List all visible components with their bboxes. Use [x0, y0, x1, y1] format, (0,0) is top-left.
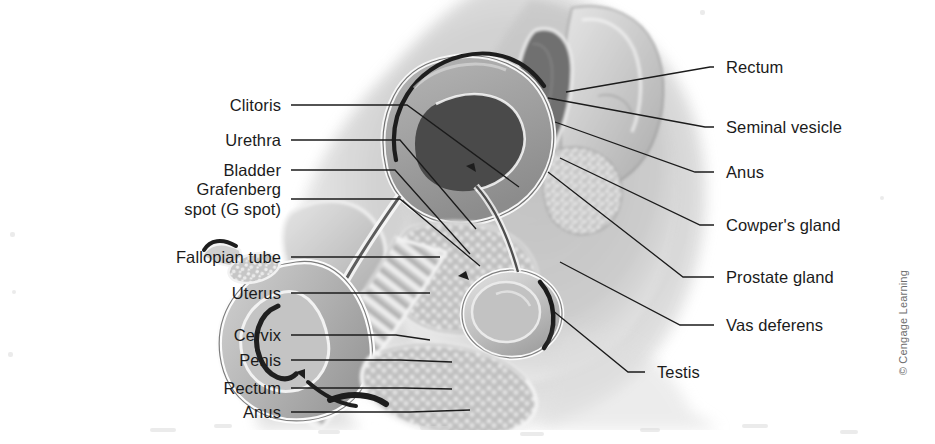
label-bladder: Bladder — [223, 160, 281, 180]
label-text-uterus: Uterus — [232, 283, 281, 303]
label-text-penis: Penis — [239, 350, 281, 370]
label-text-cowpers-gland: Cowper's gland — [726, 215, 841, 235]
label-text-rectum-right: Rectum — [726, 57, 783, 77]
label-clitoris: Clitoris — [230, 95, 281, 115]
label-text-prostate-gland: Prostate gland — [726, 267, 834, 287]
label-text-fallopian-tube: Fallopian tube — [176, 247, 281, 267]
copyright-notice: © Cengage Learning — [897, 270, 909, 375]
label-penis: Penis — [239, 350, 281, 370]
label-text-vas-deferens: Vas deferens — [726, 315, 823, 335]
label-text-testis: Testis — [657, 362, 700, 382]
label-urethra: Urethra — [225, 130, 281, 150]
label-text-urethra: Urethra — [225, 130, 281, 150]
label-text-cervix: Cervix — [234, 325, 281, 345]
label-anus-left: Anus — [243, 402, 281, 422]
label-cowpers-gland: Cowper's gland — [726, 215, 841, 235]
label-text-anus-left: Anus — [243, 402, 281, 422]
label-text-rectum-left: Rectum — [224, 378, 281, 398]
label-uterus: Uterus — [232, 283, 281, 303]
label-rectum-left: Rectum — [224, 378, 281, 398]
label-text-clitoris: Clitoris — [230, 95, 281, 115]
anatomy-figure: ClitorisUrethraBladderGrafenbergspot (G … — [0, 0, 935, 444]
label-text-grafenberg-spot: Grafenberg — [184, 179, 281, 199]
label-cervix: Cervix — [234, 325, 281, 345]
label-rectum-right: Rectum — [726, 57, 783, 77]
label-anus-right: Anus — [726, 162, 764, 182]
label-fallopian-tube: Fallopian tube — [176, 247, 281, 267]
label-testis: Testis — [657, 362, 700, 382]
label-text-seminal-vesicle: Seminal vesicle — [726, 117, 842, 137]
label-text-grafenberg-spot-line2: spot (G spot) — [184, 199, 281, 219]
label-seminal-vesicle: Seminal vesicle — [726, 117, 842, 137]
label-vas-deferens: Vas deferens — [726, 315, 823, 335]
label-text-bladder: Bladder — [223, 160, 281, 180]
label-text-anus-right: Anus — [726, 162, 764, 182]
label-grafenberg-spot: Grafenbergspot (G spot) — [184, 179, 281, 219]
label-prostate-gland: Prostate gland — [726, 267, 834, 287]
